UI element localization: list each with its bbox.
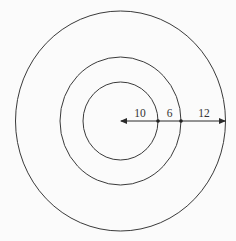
diagram-canvas: 10 6 12 (0, 0, 236, 241)
concentric-circles-diagram: 10 6 12 (0, 0, 236, 241)
segment-label-6: 6 (167, 107, 173, 119)
middle-boundary-dot (179, 119, 183, 123)
segment-label-12: 12 (198, 107, 210, 119)
inner-boundary-dot (156, 119, 160, 123)
segment-label-10: 10 (134, 107, 146, 119)
